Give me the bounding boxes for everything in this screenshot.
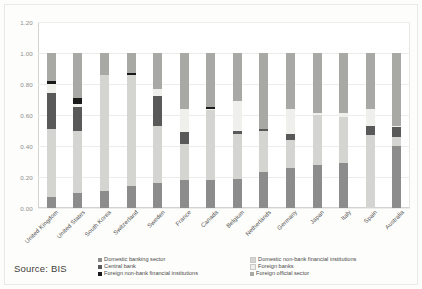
bar-segment [153,96,162,125]
stacked-bar[interactable] [153,53,162,208]
stacked-bar[interactable] [73,53,82,208]
bar-segment [180,180,189,208]
bar-segment [180,132,189,144]
bar-segment [286,109,295,134]
bar-segment [366,135,375,208]
bar-segment [259,172,268,208]
y-axis-tick-label: 0.80 [20,81,33,88]
stacked-bar[interactable] [47,53,56,208]
bar-segment [286,168,295,208]
source-note: Source: BIS [14,263,67,274]
legend-label: Domestic non-bank financial institutions [258,257,356,263]
stacked-bar[interactable] [233,53,242,208]
bar-column [384,22,411,208]
bar-series-container [38,22,410,208]
bar-segment [127,75,136,187]
bar-segment [73,53,82,98]
x-axis-tick-label: Japan [309,209,325,225]
bar-segment [366,53,375,109]
x-axis-tick-label: France [175,209,193,227]
bar-column [277,22,304,208]
x-axis-tick-label: Sweden [146,209,166,229]
chart-page: 0.000.200.400.600.801.001.20 United King… [0,0,422,289]
bar-column [118,22,145,208]
x-axis-tick-label: Italy [339,209,351,221]
legend-item[interactable]: Central bank [98,264,250,270]
bar-column [357,22,384,208]
y-axis-tick-label: 0.00 [20,205,33,212]
legend-label: Central bank [104,264,136,270]
stacked-bar[interactable] [206,53,215,208]
bar-column [330,22,357,208]
bar-segment [153,183,162,208]
legend-swatch-icon [250,257,256,263]
y-axis-tick-label: 0.40 [20,143,33,150]
bar-segment [47,53,56,81]
bar-segment [73,193,82,209]
legend-swatch-icon [98,272,102,276]
bar-segment [180,109,189,132]
x-axis-tick-label: Netherlands [244,209,272,237]
bar-segment [286,140,295,168]
legend-swatch-icon [250,264,256,270]
bar-segment [259,53,268,129]
bar-segment [339,117,348,164]
stacked-bar[interactable] [339,53,348,208]
stacked-bar[interactable] [127,53,136,208]
legend-item[interactable]: Foreign non-bank financial institutions [98,271,250,277]
bar-segment [392,146,401,208]
bar-column [91,22,118,208]
x-axis-tick-label: United States [55,209,86,240]
bar-segment [127,53,136,73]
bar-segment [313,165,322,208]
bar-column [65,22,92,208]
chart-legend: Domestic banking sectorCentral bankForei… [98,252,410,282]
legend-swatch-icon [98,265,102,269]
bar-segment [233,179,242,208]
bar-segment [47,93,56,129]
stacked-bar[interactable] [180,53,189,208]
stacked-bar[interactable] [366,53,375,208]
legend-item[interactable]: Domestic non-bank financial institutions [250,257,410,263]
bar-column [144,22,171,208]
bar-segment [339,53,348,113]
bar-segment [100,75,109,191]
bar-segment [366,126,375,135]
bar-column [251,22,278,208]
bar-column [38,22,65,208]
y-axis-tick-label: 1.20 [20,19,33,26]
bar-column [171,22,198,208]
y-axis-tick-label: 0.20 [20,174,33,181]
legend-column-left: Domestic banking sectorCentral bankForei… [98,252,250,282]
bar-segment [206,53,215,107]
bar-segment [339,163,348,208]
bar-segment [47,84,56,93]
stacked-bar[interactable] [100,53,109,208]
bar-column [197,22,224,208]
bar-segment [233,53,242,101]
legend-swatch-icon [250,272,254,276]
legend-item[interactable]: Foreign banks [250,264,410,270]
bar-segment [392,137,401,146]
x-axis-tick-label: Australia [384,209,405,230]
bar-segment [313,53,322,113]
bar-segment [313,115,322,165]
y-axis-tick-label: 1.00 [20,50,33,57]
stacked-bar[interactable] [392,53,401,208]
bar-segment [127,186,136,208]
bar-segment [286,53,295,109]
legend-label: Foreign official sector [256,271,309,277]
bar-segment [206,180,215,208]
bar-segment [392,127,401,136]
stacked-bar[interactable] [313,53,322,208]
x-axis-tick-label: Spain [363,209,378,224]
bar-segment [233,101,242,130]
stacked-bar[interactable] [286,53,295,208]
bar-segment [100,53,109,75]
legend-item[interactable]: Domestic banking sector [98,257,250,263]
bar-segment [180,53,189,109]
stacked-bar[interactable] [259,53,268,208]
bar-segment [233,134,242,179]
legend-swatch-icon [98,258,102,262]
legend-item[interactable]: Foreign official sector [250,271,410,277]
